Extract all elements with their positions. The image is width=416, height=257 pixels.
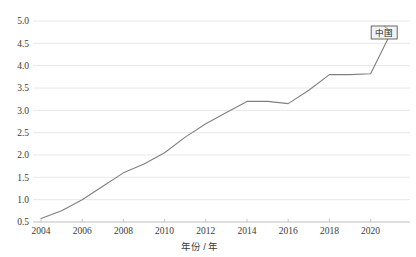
gridlines-group	[33, 21, 410, 222]
series-label-text: 中国	[375, 28, 393, 38]
x-axis-title: 年份 / 年	[181, 241, 219, 252]
y-tick-label: 1.5	[17, 173, 29, 183]
y-tick-label: 1.0	[17, 195, 29, 205]
chart-container: 0.51.01.52.02.53.03.54.04.55.0 200420062…	[0, 0, 416, 257]
x-tick-label: 2008	[114, 226, 133, 236]
y-tick-label: 4.0	[17, 61, 29, 71]
y-axis-tick-labels: 0.51.01.52.02.53.03.54.04.55.0	[17, 16, 29, 227]
x-tick-label: 2018	[320, 226, 339, 236]
x-tick-label: 2020	[361, 226, 380, 236]
data-line	[41, 32, 391, 218]
y-tick-label: 4.5	[17, 39, 29, 49]
y-tick-label: 0.5	[17, 217, 29, 227]
x-tick-label: 2016	[279, 226, 298, 236]
x-tick-label: 2004	[32, 226, 51, 236]
x-tick-label: 2012	[196, 226, 215, 236]
data-series-group	[41, 32, 391, 218]
x-axis-tick-labels: 200420062008201020122014201620182020	[32, 226, 381, 236]
x-axis-tick-marks	[41, 219, 371, 222]
line-chart: 0.51.01.52.02.53.03.54.04.55.0 200420062…	[0, 0, 416, 257]
y-tick-label: 2.0	[17, 150, 29, 160]
y-tick-label: 2.5	[17, 128, 29, 138]
x-tick-label: 2014	[238, 226, 257, 236]
y-tick-label: 3.5	[17, 83, 29, 93]
x-tick-label: 2006	[73, 226, 92, 236]
y-tick-label: 3.0	[17, 106, 29, 116]
series-annotation-group: 中国	[371, 26, 397, 39]
x-tick-label: 2010	[155, 226, 174, 236]
y-tick-label: 5.0	[17, 16, 29, 26]
